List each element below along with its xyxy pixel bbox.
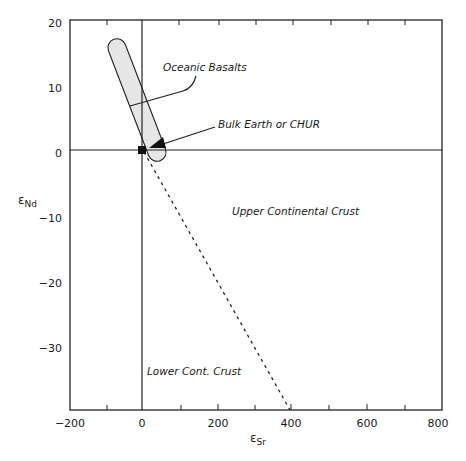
y-tick-minus20: −20 <box>39 277 62 290</box>
oceanic-basalts-label: Oceanic Basalts <box>163 61 247 73</box>
y-tick-20: 20 <box>48 17 62 30</box>
bottom-ticks <box>107 404 405 410</box>
chur-marker <box>138 146 146 154</box>
chur-pointer-line <box>160 127 215 145</box>
x-tick-minus200: −200 <box>55 417 85 430</box>
top-ticks <box>107 20 405 25</box>
chur-label: Bulk Earth or CHUR <box>218 118 320 130</box>
y-tick-0: 0 <box>55 147 62 160</box>
lower-cont-crust-label: Lower Cont. Crust <box>147 365 242 377</box>
y-tick-labels: 20 10 0 −10 −20 −30 <box>39 17 62 355</box>
y-tick-10: 10 <box>48 82 62 95</box>
y-axis-label: εNd <box>18 193 37 209</box>
x-tick-800: 800 <box>428 417 449 430</box>
x-tick-600: 600 <box>357 417 378 430</box>
x-tick-0: 0 <box>139 417 146 430</box>
y-tick-minus30: −30 <box>39 342 62 355</box>
y-tick-minus10: −10 <box>39 212 62 225</box>
isotope-chart: 20 10 0 −10 −20 −30 −200 0 200 400 600 8… <box>0 0 466 461</box>
x-axis-label: εSr <box>250 431 266 447</box>
x-tick-400: 400 <box>281 417 302 430</box>
x-tick-200: 200 <box>208 417 229 430</box>
upper-continental-crust-label: Upper Continental Crust <box>232 205 360 217</box>
x-tick-labels: −200 0 200 400 600 800 <box>55 417 449 430</box>
